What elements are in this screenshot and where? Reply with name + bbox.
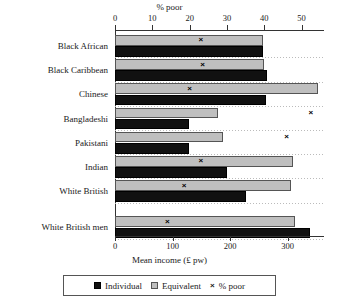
percent-poor-marker: × [200,61,205,69]
top-axis-title: % poor [0,2,339,12]
category-label: Bangladeshi [64,114,109,124]
percent-poor-marker: × [309,109,314,117]
bar-equivalent [115,132,223,143]
legend-x-marker-icon: × [210,281,215,290]
bottom-axis-tick-label: 0 [113,241,117,251]
percent-poor-marker: × [284,133,289,141]
bottom-axis-tick-label: 100 [166,241,179,251]
bar-individual [115,191,246,202]
legend-item: ×% poor [210,281,245,291]
percent-poor-marker: × [198,157,203,165]
category-label: Black African [58,41,108,51]
category-label: Indian [85,162,108,172]
legend-swatch-icon [94,282,101,289]
legend-label: Equivalent [162,281,201,291]
legend-label: Individual [105,281,142,291]
category-label: White British [59,186,108,196]
bar-equivalent [115,180,291,191]
bottom-axis-tick-labels: 0100200300 [0,241,339,252]
percent-poor-marker: × [165,218,170,226]
top-axis-tick-label: 10 [148,13,157,23]
bottom-axis-title: Mean income (£ pw) [0,255,339,265]
category-label: Pakistani [75,138,108,148]
bottom-axis-tick-label: 200 [224,241,237,251]
percent-poor-marker: × [187,85,192,93]
legend-label: % poor [219,281,245,291]
bar-individual [115,143,189,154]
top-axis-tick-labels: 01020304050 [0,13,339,24]
category-label: Black Caribbean [48,65,108,75]
legend-swatch-icon [151,282,158,289]
top-axis-tick-label: 50 [297,13,306,23]
bar-equivalent [115,35,263,46]
category-label: Chinese [79,89,108,99]
bar-individual [115,167,227,178]
bar-equivalent [115,59,264,70]
bar-equivalent [115,83,318,94]
bar-individual [115,95,266,106]
bottom-axis-tick-label: 300 [281,241,294,251]
legend-item: Equivalent [151,281,201,291]
top-axis-tick-label: 20 [185,13,194,23]
chart-legend: IndividualEquivalent×% poor [63,275,276,296]
category-labels: Black AfricanBlack CaribbeanChineseBangl… [0,31,112,235]
percent-poor-marker: × [198,36,203,44]
top-axis-tick-label: 30 [223,13,232,23]
bar-equivalent [115,216,295,227]
bar-equivalent [115,108,218,119]
legend-item: Individual [94,281,142,291]
chart-container: % poor 01020304050 Black AfricanBlack Ca… [0,0,339,303]
bar-individual [115,119,189,130]
top-axis-tick-label: 0 [113,13,117,23]
plot-area: ×××××××× [115,31,324,235]
gridline [115,203,324,204]
top-axis-tick-label: 40 [260,13,269,23]
bar-individual [115,46,263,57]
bar-individual [115,70,267,81]
percent-poor-marker: × [182,182,187,190]
category-label: White British men [42,222,109,232]
bar-equivalent [115,156,293,167]
